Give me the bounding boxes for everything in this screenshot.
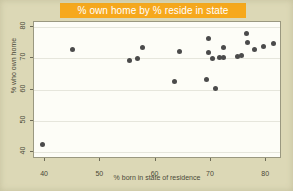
data-point (252, 47, 257, 52)
data-point (172, 79, 177, 84)
y-tick-40: 40 (14, 146, 28, 156)
gridline-y-50 (34, 121, 280, 122)
data-point (210, 56, 215, 61)
gridline-y-70 (34, 58, 280, 59)
data-point (204, 77, 209, 82)
data-point (135, 56, 140, 61)
x-tick-mark-50 (99, 158, 100, 161)
y-tick-label: 60 (19, 82, 26, 94)
y-tick-50: 50 (14, 115, 28, 125)
data-point (70, 47, 75, 52)
y-tick-mark-50 (30, 120, 33, 121)
chart-title: % own home by % reside in state (78, 6, 229, 16)
x-tick-mark-70 (210, 158, 211, 161)
data-point (140, 45, 145, 50)
data-point (40, 142, 45, 147)
data-point (127, 58, 132, 63)
data-point (206, 36, 211, 41)
gridline-y-80 (34, 27, 280, 28)
x-tick-mark-80 (265, 158, 266, 161)
y-axis-label: % who own home (10, 24, 17, 108)
plot-area (33, 21, 281, 158)
gridline-y-60 (34, 90, 280, 91)
x-axis-label: % born in state of residence (33, 174, 281, 181)
data-point (177, 49, 182, 54)
chart-title-band: % own home by % reside in state (60, 3, 246, 18)
data-point (245, 40, 250, 45)
x-tick-mark-40 (44, 158, 45, 161)
y-tick-mark-70 (30, 57, 33, 58)
data-point (244, 31, 249, 36)
data-point (261, 44, 266, 49)
y-tick-label: 40 (19, 145, 26, 157)
gridline-y-40 (34, 152, 280, 153)
data-point (213, 86, 218, 91)
data-point (271, 41, 276, 46)
y-tick-label: 80 (19, 19, 26, 31)
data-point (206, 50, 211, 55)
x-tick-mark-60 (155, 158, 156, 161)
y-tick-label: 70 (19, 51, 26, 63)
scatter-chart-figure: % own home by % reside in state 40506070… (0, 0, 293, 191)
y-tick-mark-40 (30, 151, 33, 152)
y-tick-mark-60 (30, 89, 33, 90)
y-tick-label: 50 (19, 113, 26, 125)
data-point (221, 45, 226, 50)
y-tick-mark-80 (30, 26, 33, 27)
data-point (221, 55, 226, 60)
